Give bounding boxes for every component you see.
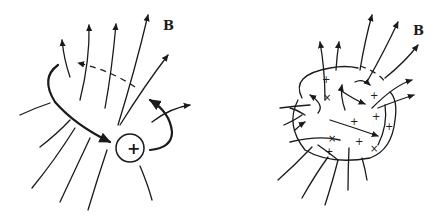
diagram-canvas: + × + + + + × + × + B + B (0, 0, 439, 217)
svg-text:+: + (355, 136, 363, 147)
svg-text:+: + (322, 74, 330, 85)
right-field-label: B (413, 23, 424, 38)
svg-text:+: + (350, 116, 358, 127)
point-charge-sign: + (127, 139, 140, 158)
svg-text:×: × (328, 133, 336, 144)
svg-text:+: + (385, 121, 393, 132)
field-diagram: + × + + + + × + × + (0, 0, 439, 217)
svg-text:+: + (325, 146, 333, 157)
svg-text:+: + (372, 111, 380, 122)
svg-text:+: + (370, 90, 378, 101)
svg-text:×: × (323, 92, 331, 103)
left-field-label: B (163, 18, 174, 33)
right-field-lines (278, 15, 418, 205)
surface-charges: + × + + + + × + × + (322, 74, 393, 157)
svg-text:×: × (370, 143, 378, 154)
